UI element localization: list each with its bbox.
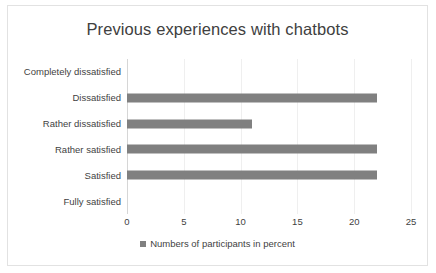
bar-row (127, 85, 411, 111)
legend-label: Numbers of participants in percent (150, 238, 295, 249)
bar-row (127, 162, 411, 188)
value-axis-labels: 0510152025 (127, 216, 411, 232)
chart-container: Previous experiences with chatbots Compl… (7, 5, 428, 266)
bar-row (127, 59, 411, 85)
bar[interactable] (127, 119, 252, 128)
bar[interactable] (127, 93, 377, 102)
value-axis-label: 15 (292, 216, 303, 227)
bar-row (127, 137, 411, 163)
legend-swatch-icon (140, 241, 146, 247)
chart-legend: Numbers of participants in percent (8, 238, 427, 249)
value-axis-label: 20 (349, 216, 360, 227)
category-axis-label: Fully satisfied (8, 196, 121, 207)
bar-row (127, 188, 411, 214)
category-axis-label: Dissatisfied (8, 92, 121, 103)
value-axis-label: 10 (235, 216, 246, 227)
bar-series (127, 59, 411, 214)
value-axis-label: 25 (406, 216, 417, 227)
category-axis-labels: Completely dissatisfiedDissatisfiedRathe… (8, 59, 121, 214)
gridline (411, 59, 412, 214)
bar-row (127, 111, 411, 137)
category-axis-label: Satisfied (8, 170, 121, 181)
value-axis-label: 0 (124, 216, 129, 227)
value-axis-label: 5 (181, 216, 186, 227)
chart-title: Previous experiences with chatbots (8, 20, 427, 39)
bar[interactable] (127, 171, 377, 180)
category-axis-label: Rather satisfied (8, 144, 121, 155)
bar[interactable] (127, 145, 377, 154)
category-axis-label: Completely dissatisfied (8, 66, 121, 77)
category-axis-label: Rather dissatisfied (8, 118, 121, 129)
plot-area (127, 59, 411, 214)
